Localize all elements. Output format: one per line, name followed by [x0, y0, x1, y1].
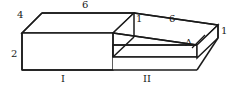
dim-label-top-right-length: 6 — [169, 14, 175, 24]
slab-two-front-lower-band — [113, 57, 197, 70]
dim-label-left-depth: 4 — [17, 10, 23, 20]
solid-drawing — [0, 0, 233, 89]
stepped-solid-figure: 4 6 2 1 6 1 A I II — [0, 0, 233, 89]
region-label-two: II — [143, 74, 151, 84]
dim-label-top-left-length: 6 — [82, 0, 88, 10]
region-label-one: I — [61, 74, 65, 84]
dim-label-right-height: 1 — [221, 26, 227, 36]
point-label-a: A — [185, 38, 192, 48]
slab-one-front-face — [22, 33, 113, 70]
dim-label-left-height: 2 — [11, 49, 17, 59]
dim-label-step-height: 1 — [136, 14, 142, 24]
